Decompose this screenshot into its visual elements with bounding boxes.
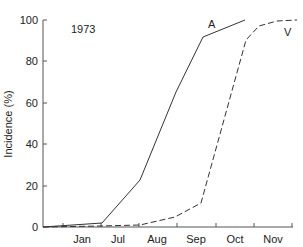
svg-text:Jan: Jan xyxy=(73,233,91,245)
series-v-label: V xyxy=(284,26,292,38)
svg-text:Sep: Sep xyxy=(186,233,206,245)
svg-text:60: 60 xyxy=(26,97,38,109)
year-annotation: 1973 xyxy=(71,23,95,35)
y-tick-labels: 100 80 60 40 20 0 xyxy=(20,14,38,233)
x-tick-labels: Jan Jul Aug Sep Oct Nov xyxy=(73,233,283,245)
svg-text:80: 80 xyxy=(26,55,38,67)
y-ticks xyxy=(43,20,47,186)
chart-canvas: 100 80 60 40 20 0 Jan Jul Aug Sep Oct No… xyxy=(0,0,303,247)
series-v-line xyxy=(43,20,297,227)
svg-text:Oct: Oct xyxy=(226,233,243,245)
svg-text:20: 20 xyxy=(26,180,38,192)
incidence-line-chart: 100 80 60 40 20 0 Jan Jul Aug Sep Oct No… xyxy=(0,0,303,247)
svg-text:Aug: Aug xyxy=(147,233,167,245)
series-a-label: A xyxy=(208,18,216,30)
svg-text:100: 100 xyxy=(20,14,38,26)
series-a-line xyxy=(43,20,245,227)
svg-text:Nov: Nov xyxy=(263,233,283,245)
svg-text:0: 0 xyxy=(32,221,38,233)
y-axis-label: Incidence (%) xyxy=(2,90,14,157)
svg-text:40: 40 xyxy=(26,138,38,150)
svg-text:Jul: Jul xyxy=(111,233,125,245)
